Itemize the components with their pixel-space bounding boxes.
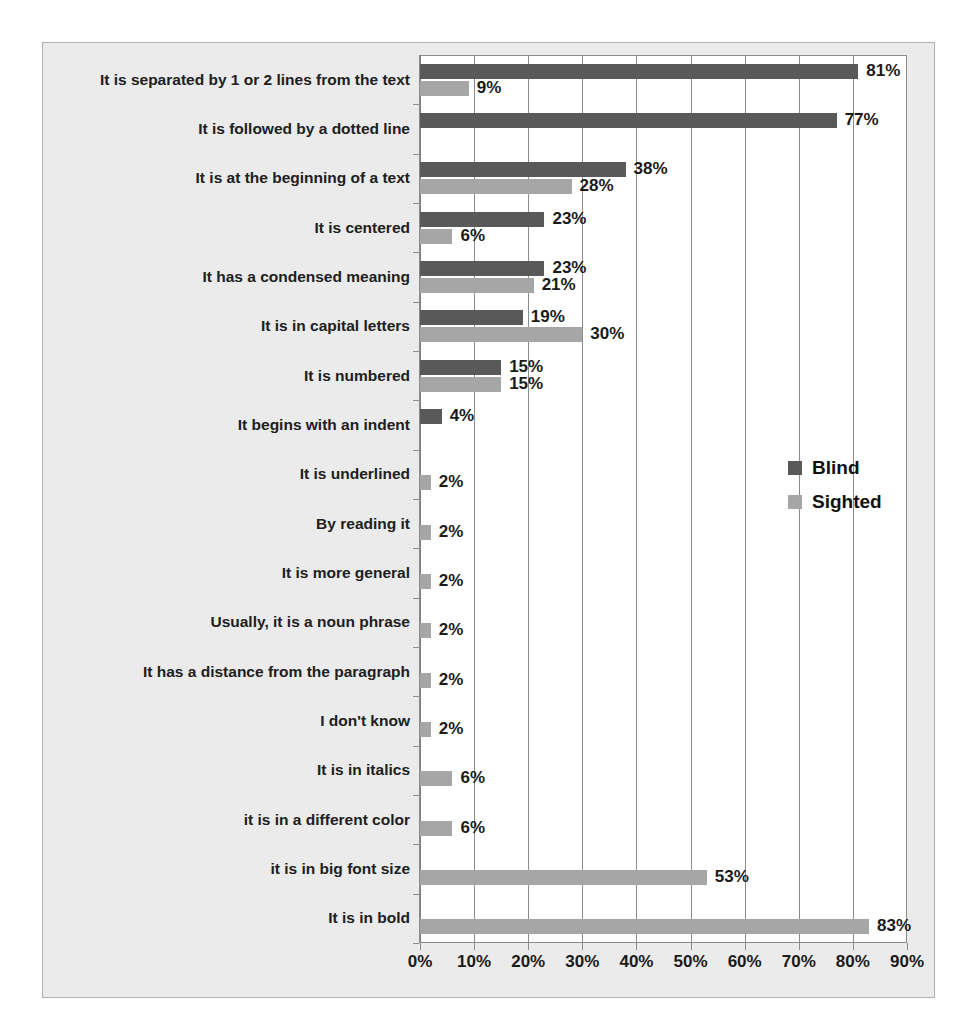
y-axis-tick xyxy=(413,252,419,253)
bar-sighted xyxy=(420,475,431,490)
bar-value-label: 15% xyxy=(509,376,543,391)
category-label: It is more general xyxy=(282,564,410,582)
bar-sighted xyxy=(420,673,431,688)
x-axis-label: 70% xyxy=(782,952,816,972)
bar-value-label: 83% xyxy=(877,918,911,933)
bar-sighted xyxy=(420,623,431,638)
bar-value-label: 23% xyxy=(552,211,586,226)
category-label: It is centered xyxy=(314,219,410,237)
x-axis-tick xyxy=(853,943,854,950)
bar-value-label: 53% xyxy=(715,869,749,884)
x-axis-tick xyxy=(420,943,421,950)
bar-sighted xyxy=(420,771,452,786)
x-axis-label: 20% xyxy=(511,952,545,972)
y-axis-tick xyxy=(413,746,419,747)
plot-border-bottom xyxy=(420,942,907,943)
y-axis-tick xyxy=(413,696,419,697)
category-label: It is underlined xyxy=(300,465,410,483)
category-label: It is at the beginning of a text xyxy=(196,169,410,187)
x-axis-label: 60% xyxy=(728,952,762,972)
bar-sighted xyxy=(420,327,582,342)
y-axis-tick xyxy=(413,450,419,451)
x-axis-label: 80% xyxy=(836,952,870,972)
bar-value-label: 2% xyxy=(439,721,464,736)
legend-swatch-sighted-icon xyxy=(788,495,802,509)
category-label: It is in bold xyxy=(328,909,410,927)
bar-blind xyxy=(420,64,858,79)
category-label: It is in italics xyxy=(317,761,410,779)
x-axis-label: 0% xyxy=(408,952,433,972)
bar-value-label: 9% xyxy=(477,80,502,95)
gridline-50% xyxy=(691,55,692,943)
y-axis-tick xyxy=(413,647,419,648)
bar-blind xyxy=(420,162,626,177)
category-label: I don't know xyxy=(320,712,410,730)
bar-sighted xyxy=(420,525,431,540)
x-axis-tick xyxy=(636,943,637,950)
bar-value-label: 2% xyxy=(439,474,464,489)
bar-blind xyxy=(420,409,442,424)
bar-value-label: 77% xyxy=(845,112,879,127)
category-label: It is followed by a dotted line xyxy=(198,120,410,138)
y-axis-tick xyxy=(413,351,419,352)
x-axis-tick xyxy=(691,943,692,950)
x-axis-label: 90% xyxy=(890,952,924,972)
y-axis-tick xyxy=(413,104,419,105)
gridline-60% xyxy=(745,55,746,943)
category-label: It has a condensed meaning xyxy=(202,268,410,286)
bar-value-label: 30% xyxy=(590,326,624,341)
x-axis-label: 10% xyxy=(457,952,491,972)
bar-sighted xyxy=(420,229,452,244)
bar-value-label: 23% xyxy=(552,260,586,275)
y-axis-tick xyxy=(413,894,419,895)
bar-value-label: 21% xyxy=(542,277,576,292)
x-axis-label: 50% xyxy=(674,952,708,972)
legend-label-blind: Blind xyxy=(812,457,860,479)
bar-blind xyxy=(420,113,837,128)
category-label: it is in a different color xyxy=(244,811,410,829)
x-axis-tick xyxy=(799,943,800,950)
category-label: It is numbered xyxy=(304,367,410,385)
bar-sighted xyxy=(420,821,452,836)
bar-sighted xyxy=(420,377,501,392)
category-label: Usually, it is a noun phrase xyxy=(210,613,410,631)
x-axis-label: 40% xyxy=(619,952,653,972)
bar-sighted xyxy=(420,179,572,194)
bar-sighted xyxy=(420,81,469,96)
bar-sighted xyxy=(420,574,431,589)
bar-sighted xyxy=(420,278,534,293)
category-label: It begins with an indent xyxy=(238,416,410,434)
y-axis-tick xyxy=(413,203,419,204)
legend-swatch-blind-icon xyxy=(788,461,802,475)
x-axis-tick xyxy=(907,943,908,950)
y-axis-tick xyxy=(413,499,419,500)
chart-screenshot: It is separated by 1 or 2 lines from the… xyxy=(0,0,971,1036)
bar-value-label: 6% xyxy=(460,820,485,835)
bar-value-label: 2% xyxy=(439,622,464,637)
plot-border-top xyxy=(420,55,907,56)
chart-frame: It is separated by 1 or 2 lines from the… xyxy=(42,42,935,998)
x-axis-tick xyxy=(528,943,529,950)
x-axis-tick xyxy=(474,943,475,950)
bar-value-label: 2% xyxy=(439,524,464,539)
bar-value-label: 38% xyxy=(634,161,668,176)
y-axis-tick xyxy=(413,154,419,155)
y-axis-tick xyxy=(413,400,419,401)
bar-value-label: 2% xyxy=(439,573,464,588)
bar-sighted xyxy=(420,722,431,737)
gridline-40% xyxy=(636,55,637,943)
bar-sighted xyxy=(420,870,707,885)
y-axis-tick xyxy=(413,795,419,796)
y-axis-tick xyxy=(413,943,419,944)
category-label: It has a distance from the paragraph xyxy=(143,663,410,681)
legend-label-sighted: Sighted xyxy=(812,491,882,513)
y-axis-tick xyxy=(413,598,419,599)
category-axis-labels: It is separated by 1 or 2 lines from the… xyxy=(53,55,410,943)
bar-value-label: 4% xyxy=(450,408,475,423)
bar-sighted xyxy=(420,919,869,934)
bar-value-label: 6% xyxy=(460,228,485,243)
bar-value-label: 6% xyxy=(460,770,485,785)
y-axis-tick xyxy=(413,302,419,303)
bar-value-label: 19% xyxy=(531,309,565,324)
bar-value-label: 28% xyxy=(580,178,614,193)
